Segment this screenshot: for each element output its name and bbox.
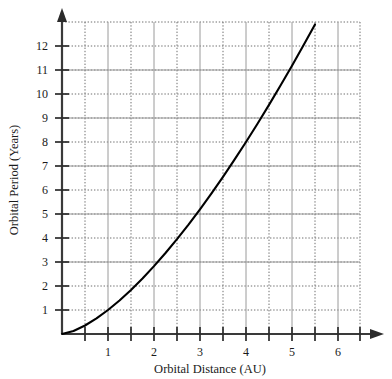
x-tick-label: 2	[151, 345, 157, 359]
data-series-curve	[62, 24, 315, 334]
x-tick-label: 1	[105, 345, 111, 359]
chart-container: 1 2 3 4 5 6 7 8 9 10 11 12 1 2 3 4 5 6 O…	[0, 0, 392, 379]
y-tick-label: 6	[42, 183, 48, 197]
x-axis-tick-labels: 1 2 3 4 5 6	[105, 345, 341, 359]
x-tick-label: 4	[243, 345, 249, 359]
x-axis-arrow-icon	[370, 329, 384, 339]
y-axis	[57, 8, 67, 334]
x-tick-label: 3	[197, 345, 203, 359]
x-axis-title: Orbital Distance (AU)	[154, 362, 266, 376]
x-tick-label: 5	[289, 345, 295, 359]
y-tick-label: 12	[36, 39, 48, 53]
y-tick-label: 9	[42, 111, 48, 125]
y-axis-tick-labels: 1 2 3 4 5 6 7 8 9 10 11 12	[36, 39, 48, 317]
y-tick-label: 7	[42, 159, 48, 173]
y-tick-label: 5	[42, 207, 48, 221]
y-tick-label: 8	[42, 135, 48, 149]
y-tick-label: 11	[36, 63, 48, 77]
y-tick-label: 10	[36, 87, 48, 101]
x-tick-label: 6	[335, 345, 341, 359]
orbital-period-vs-distance-chart: 1 2 3 4 5 6 7 8 9 10 11 12 1 2 3 4 5 6 O…	[0, 0, 392, 379]
y-tick-label: 2	[42, 279, 48, 293]
y-tick-label: 3	[42, 255, 48, 269]
y-axis-title: Orbital Period (Years)	[7, 125, 21, 236]
y-axis-arrow-icon	[57, 8, 67, 22]
y-tick-label: 4	[42, 231, 48, 245]
y-tick-label: 1	[42, 303, 48, 317]
